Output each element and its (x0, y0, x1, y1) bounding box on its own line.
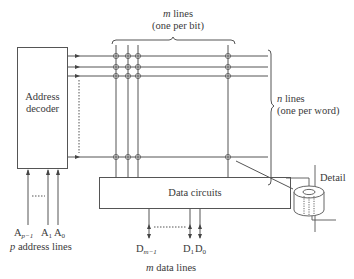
data-lines (149, 209, 200, 238)
detail-leader-line (236, 161, 293, 189)
address-input-lines (28, 170, 58, 225)
bit-lines (116, 45, 228, 178)
address-lines-caption: p address lines (10, 241, 72, 253)
decoder-label-line1: Address (17, 91, 68, 103)
word-lines-label: n lines (one per word) (277, 93, 339, 117)
core-cells (113, 53, 230, 159)
address-label-a1: A1 (41, 227, 52, 239)
word-lines (67, 56, 268, 157)
data-label-dm1: Dm−1 (136, 243, 157, 255)
bit-lines-text: lines (173, 8, 193, 19)
bit-lines-var: m (163, 8, 171, 19)
bit-lines-brace (112, 37, 235, 44)
word-lines-var: n (277, 93, 282, 104)
data-circuits-label: Data circuits (100, 187, 290, 199)
address-decoder-label: Address decoder (17, 91, 68, 115)
data-lines-caption: m data lines (146, 262, 196, 274)
data-label-d0: D0 (195, 243, 206, 255)
bit-lines-label: m lines (one per bit) (143, 8, 213, 32)
address-label-ap1: Ap−1 (14, 227, 33, 239)
word-lines-subtitle: (one per word) (277, 105, 339, 117)
address-label-a0: A0 (54, 227, 65, 239)
bit-lines-subtitle: (one per bit) (143, 20, 213, 32)
decoder-label-line2: decoder (17, 103, 68, 115)
arrowheads (26, 54, 202, 239)
word-lines-brace (268, 50, 274, 185)
word-lines-text: lines (285, 93, 305, 104)
data-label-d1: D1 (183, 243, 194, 255)
detail-label: Detail (320, 172, 346, 184)
